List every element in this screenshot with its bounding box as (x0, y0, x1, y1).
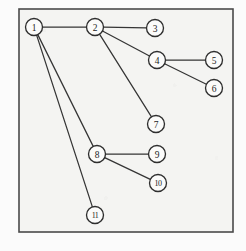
graph-node-2[interactable]: 2 (87, 19, 104, 36)
graph-node-7[interactable]: 7 (148, 116, 165, 133)
node-label-6: 6 (212, 84, 217, 94)
graph-svg: 1234567891011 (0, 0, 246, 251)
node-label-5: 5 (212, 56, 217, 66)
node-label-9: 9 (155, 150, 160, 160)
node-label-8: 8 (95, 150, 100, 160)
node-label-4: 4 (155, 56, 160, 66)
diagram-canvas: 1234567891011 (0, 0, 246, 251)
node-label-11: 11 (92, 211, 99, 220)
graph-node-4[interactable]: 4 (149, 52, 166, 69)
node-label-2: 2 (93, 23, 98, 33)
graph-node-10[interactable]: 10 (150, 175, 167, 192)
node-label-1: 1 (32, 23, 37, 33)
graph-node-8[interactable]: 8 (89, 146, 106, 163)
diagram-border-frame (19, 9, 233, 232)
graph-node-1[interactable]: 1 (26, 19, 43, 36)
graph-node-6[interactable]: 6 (206, 80, 223, 97)
graph-node-9[interactable]: 9 (149, 146, 166, 163)
node-label-7: 7 (154, 120, 159, 130)
graph-node-3[interactable]: 3 (147, 20, 164, 37)
graph-edge-2-3 (103, 27, 146, 28)
graph-node-5[interactable]: 5 (206, 52, 223, 69)
node-label-3: 3 (153, 24, 158, 34)
node-label-10: 10 (155, 179, 162, 188)
graph-node-11[interactable]: 11 (87, 207, 104, 224)
